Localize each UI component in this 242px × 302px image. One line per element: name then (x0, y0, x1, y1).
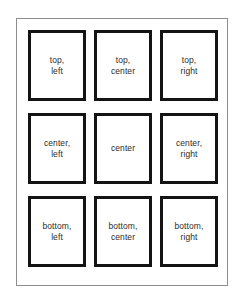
cell-label-line1: center, (44, 138, 70, 149)
grid-cell-center-left: center, left (28, 113, 86, 184)
cell-label-line2: right (180, 149, 197, 160)
grid-cell-bottom-right: bottom, right (160, 196, 218, 267)
cell-label-line2: center (111, 232, 135, 243)
grid-cell-bottom-center: bottom, center (94, 196, 152, 267)
grid-cell-top-right: top, right (160, 30, 218, 101)
cell-label-line1: bottom, (108, 221, 137, 232)
cell-label-line1: top, (116, 55, 131, 66)
cell-label-line1: bottom, (42, 221, 71, 232)
cell-label-line1: top, (50, 55, 65, 66)
grid-cell-center-right: center, right (160, 113, 218, 184)
cell-label-line2: left (51, 232, 63, 243)
cell-label-line2: left (51, 149, 63, 160)
grid-cell-center: center (94, 113, 152, 184)
grid-cell-top-left: top, left (28, 30, 86, 101)
grid-cell-top-center: top, center (94, 30, 152, 101)
cell-label-line2: right (180, 232, 197, 243)
alignment-grid: top, left top, center top, right center,… (28, 30, 218, 267)
cell-label-line1: center (111, 143, 135, 154)
cell-label-line2: right (180, 66, 197, 77)
cell-label-line2: left (51, 66, 63, 77)
cell-label-line1: center, (176, 138, 202, 149)
cell-label-line1: top, (182, 55, 197, 66)
grid-cell-bottom-left: bottom, left (28, 196, 86, 267)
cell-label-line2: center (111, 66, 135, 77)
cell-label-line1: bottom, (174, 221, 203, 232)
alignment-position-grid-figure: top, left top, center top, right center,… (0, 0, 242, 302)
